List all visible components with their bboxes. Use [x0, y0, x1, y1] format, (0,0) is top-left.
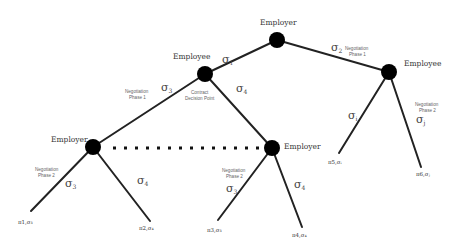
label-employee-left: Employee — [173, 52, 211, 61]
leaf-payoff-1: π1,σ₃ — [18, 219, 33, 225]
leaf-payoff-3: π3,σ₃ — [207, 227, 222, 233]
label-employer-left: Employer — [51, 135, 88, 144]
phase-label-employee-right-line1: Negotiation — [415, 102, 439, 107]
edge-employer-left-to-leaf-1 — [31, 147, 93, 211]
node-employer-mid — [264, 140, 280, 156]
edge-employee-right-to-leaf-5 — [339, 72, 389, 153]
node-root-employer — [269, 32, 285, 48]
sigma-3-label-upper: σ3 — [161, 81, 173, 94]
leaf-payoff-4: π4,σ₄ — [292, 232, 308, 238]
edge-root-to-employee-left — [205, 40, 277, 74]
phase-label-root-right-line1: Negotiation — [345, 46, 369, 51]
phase-label-employee-right-line2: Phase 2 — [419, 108, 436, 113]
note-contract-line1: Contract — [191, 90, 209, 95]
leaf-payoff-6: π6,σⱼ — [416, 171, 431, 177]
phase-label-employer-mid-line2: Phase 2 — [226, 174, 243, 179]
node-employee-left — [197, 66, 213, 82]
label-employee-right: Employee — [404, 59, 442, 68]
sigma-2-label: σ2 — [331, 41, 343, 54]
sigma-4-label-mid: σ4 — [294, 178, 306, 191]
label-employer-mid: Employer — [284, 142, 321, 151]
sigma-1-label: σ1 — [222, 53, 233, 66]
label-root-employer: Employer — [260, 18, 297, 27]
edges — [31, 40, 421, 227]
sigma-j-label: σj — [416, 113, 426, 127]
sigma-3-label-left: σ3 — [65, 177, 77, 190]
sigma-4-label-left: σ4 — [137, 174, 149, 187]
sigma-i-label: σi — [348, 109, 358, 122]
phase-label-root-right-line2: Phase 1 — [349, 52, 366, 57]
sigma-3-label-mid: σ3 — [226, 182, 238, 195]
note-decision-point-line2: Decision Point — [185, 96, 215, 101]
node-employee-right — [381, 64, 397, 80]
phase-label-employer-mid-line1: Negotiation — [222, 168, 246, 173]
phase-label-employer-left-line2: Phase 2 — [38, 173, 55, 178]
phase-label-employee-left-line1: Negotiation — [125, 89, 149, 94]
leaf-payoff-2: π2,σ₄ — [139, 225, 155, 231]
sigma-4-label-upper: σ4 — [236, 82, 248, 95]
edge-employee-to-employer-left — [93, 74, 205, 147]
game-tree-diagram: Employer Employee Employee Employer Empl… — [0, 0, 456, 251]
leaf-payoff-5: π5,σᵢ — [328, 159, 343, 165]
phase-label-employer-left-line1: Negotiation — [35, 167, 59, 172]
phase-label-employee-left-line2: Phase 1 — [129, 95, 146, 100]
